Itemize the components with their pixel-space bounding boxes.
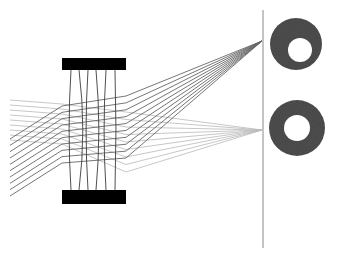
lower-spot-diagram <box>269 100 325 156</box>
optical-diagram-svg <box>0 0 338 258</box>
lens-aperture-bar-bottom <box>62 190 126 204</box>
diagram-canvas <box>0 0 338 258</box>
upper-spot-diagram <box>270 18 322 70</box>
lower-spot-annulus <box>269 100 325 156</box>
lens-aperture-bar-top <box>62 58 126 70</box>
upper-spot-annulus <box>270 18 322 70</box>
